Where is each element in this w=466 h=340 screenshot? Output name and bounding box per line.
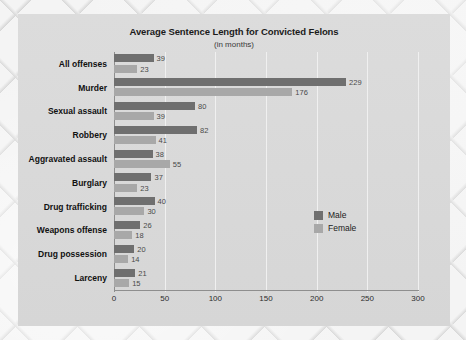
legend-label: Male	[328, 210, 346, 220]
x-axis-tick-label: 100	[209, 294, 222, 303]
x-axis-tick-label: 150	[259, 294, 272, 303]
bar-female: 55	[114, 160, 170, 168]
bar-group: Larceny2115	[114, 266, 418, 290]
category-label: All offenses	[59, 59, 107, 69]
bar-value-label: 80	[198, 101, 206, 110]
bar-value-label: 23	[140, 64, 148, 73]
bar-male: 21	[114, 269, 135, 277]
bar-value-label: 176	[295, 88, 308, 97]
x-axis-tick-label: 200	[310, 294, 323, 303]
category-label: Burglary	[72, 178, 107, 188]
chart-subtitle: (in months)	[18, 40, 450, 49]
bar-female: 176	[114, 88, 292, 96]
chart-panel: Average Sentence Length for Convicted Fe…	[18, 14, 450, 326]
bar-male: 82	[114, 126, 197, 134]
bar-female: 39	[114, 112, 154, 120]
x-axis-tick-label: 250	[361, 294, 374, 303]
bar-value-label: 14	[131, 254, 139, 263]
bar-male: 80	[114, 102, 195, 110]
x-axis-tick-label: 0	[112, 294, 116, 303]
plot-area: All offenses3923Murder229176Sexual assau…	[114, 52, 418, 290]
bar-group: Burglary3723	[114, 171, 418, 195]
legend-swatch-female	[314, 224, 323, 233]
bar-value-label: 21	[138, 268, 146, 277]
bar-female: 14	[114, 255, 128, 263]
x-axis-line	[114, 290, 419, 291]
bar-female: 18	[114, 231, 132, 239]
bar-value-label: 41	[159, 135, 167, 144]
category-label: Drug trafficking	[44, 202, 107, 212]
category-label: Aggravated assault	[29, 154, 107, 164]
bar-group: Drug possession2014	[114, 242, 418, 266]
chart-legend: MaleFemale	[314, 210, 356, 236]
category-label: Sexual assault	[48, 106, 107, 116]
bar-group: All offenses3923	[114, 52, 418, 76]
bar-female: 41	[114, 136, 156, 144]
bar-value-label: 39	[157, 54, 165, 63]
bar-female: 30	[114, 207, 144, 215]
bar-value-label: 40	[158, 197, 166, 206]
bar-value-label: 39	[157, 112, 165, 121]
screenshot-stage: Average Sentence Length for Convicted Fe…	[0, 0, 466, 340]
legend-swatch-male	[314, 211, 323, 220]
bar-value-label: 23	[140, 183, 148, 192]
legend-item-female[interactable]: Female	[314, 223, 356, 233]
bar-group: Aggravated assault3855	[114, 147, 418, 171]
bar-value-label: 15	[132, 278, 140, 287]
bar-group: Weapons offense2618	[114, 219, 418, 243]
bar-value-label: 20	[137, 244, 145, 253]
legend-item-male[interactable]: Male	[314, 210, 356, 220]
bar-female: 23	[114, 65, 137, 73]
category-label: Murder	[78, 83, 107, 93]
bar-female: 23	[114, 184, 137, 192]
bar-male: 229	[114, 78, 346, 86]
bar-value-label: 30	[147, 207, 155, 216]
bar-male: 37	[114, 173, 151, 181]
bar-male: 39	[114, 54, 154, 62]
bar-female: 15	[114, 279, 129, 287]
bar-male: 40	[114, 197, 155, 205]
gridline-300	[418, 52, 419, 292]
bar-male: 20	[114, 245, 134, 253]
bar-group: Robbery8241	[114, 123, 418, 147]
bar-value-label: 18	[135, 231, 143, 240]
category-label: Weapons offense	[37, 225, 107, 235]
category-label: Robbery	[73, 130, 107, 140]
bar-value-label: 82	[200, 125, 208, 134]
bar-group: Murder229176	[114, 76, 418, 100]
bar-group: Sexual assault8039	[114, 100, 418, 124]
bar-value-label: 38	[156, 149, 164, 158]
bar-male: 38	[114, 150, 153, 158]
chart-title: Average Sentence Length for Convicted Fe…	[18, 26, 450, 37]
x-axis-tick-label: 50	[160, 294, 169, 303]
category-label: Larceny	[74, 273, 107, 283]
bar-value-label: 55	[173, 159, 181, 168]
bar-value-label: 229	[349, 78, 362, 87]
bar-group: Drug trafficking4030	[114, 195, 418, 219]
bar-value-label: 26	[143, 220, 151, 229]
x-axis-tick-label: 300	[411, 294, 424, 303]
category-label: Drug possession	[38, 249, 107, 259]
bar-value-label: 37	[154, 173, 162, 182]
bar-male: 26	[114, 221, 140, 229]
legend-label: Female	[328, 223, 356, 233]
